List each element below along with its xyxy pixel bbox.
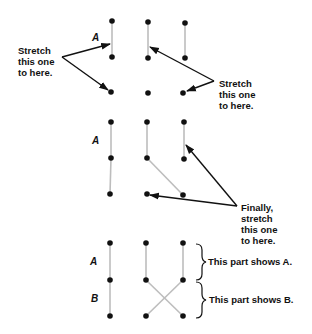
panel-3-row-label-b: B: [91, 293, 98, 304]
annotation-line: stretch: [241, 213, 277, 224]
brace-label-top: This part shows A.: [208, 256, 292, 267]
annotation-line: this one: [241, 224, 277, 235]
panel-1-left-annotation: Stretch this one to here.: [18, 45, 54, 78]
annotation-line: this one: [18, 56, 54, 67]
annotation-line: this one: [219, 89, 255, 100]
panel-1-row-label: A: [92, 32, 99, 43]
brace-icons: [196, 244, 206, 318]
annotation-line: to here.: [219, 100, 255, 111]
annotation-line: Finally,: [241, 202, 277, 213]
brace-label-bottom: This part shows B.: [209, 294, 293, 305]
annotation-line: to here.: [241, 235, 277, 246]
panel-1-arrows: [62, 44, 214, 91]
panel-1-right-annotation: Stretch this one to here.: [219, 78, 255, 111]
panel-3-row-label-a: A: [90, 256, 97, 267]
panel-2-right-annotation: Finally, stretch this one to here.: [241, 202, 277, 246]
panel-2-row-label: A: [92, 135, 99, 146]
panel-1-lines: [112, 21, 185, 58]
annotation-line: Stretch: [219, 78, 255, 89]
annotation-line: Stretch: [18, 45, 54, 56]
annotation-line: to here.: [18, 67, 54, 78]
